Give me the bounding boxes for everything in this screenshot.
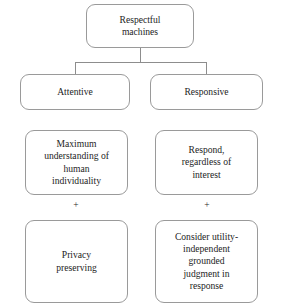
node-grounded-judgment-label: Consider utility- independent grounded j… — [175, 231, 238, 292]
node-attentive[interactable]: Attentive — [20, 74, 130, 110]
node-respond-regardless-label: Respond, regardless of interest — [182, 144, 231, 181]
node-responsive[interactable]: Responsive — [150, 74, 263, 110]
node-grounded-judgment[interactable]: Consider utility- independent grounded j… — [155, 220, 258, 303]
node-respectful-machines[interactable]: Respectful machines — [86, 4, 194, 48]
node-attentive-label: Attentive — [57, 86, 93, 98]
node-respond-regardless[interactable]: Respond, regardless of interest — [155, 130, 258, 195]
node-responsive-label: Responsive — [184, 86, 228, 98]
plus-operator-right: + — [197, 201, 217, 211]
node-maximum-understanding-label: Maximum understanding of human individua… — [44, 138, 109, 187]
node-privacy-preserving[interactable]: Privacy preserving — [25, 220, 128, 303]
connector-horizontal-bar — [75, 62, 207, 63]
node-privacy-preserving-label: Privacy preserving — [56, 249, 97, 274]
node-respectful-machines-label: Respectful machines — [119, 14, 160, 39]
connector-root-stem — [140, 48, 141, 63]
flowchart-diagram: Respectful machines Attentive Responsive… — [0, 0, 283, 308]
node-maximum-understanding[interactable]: Maximum understanding of human individua… — [25, 130, 128, 195]
plus-operator-left: + — [66, 201, 86, 211]
